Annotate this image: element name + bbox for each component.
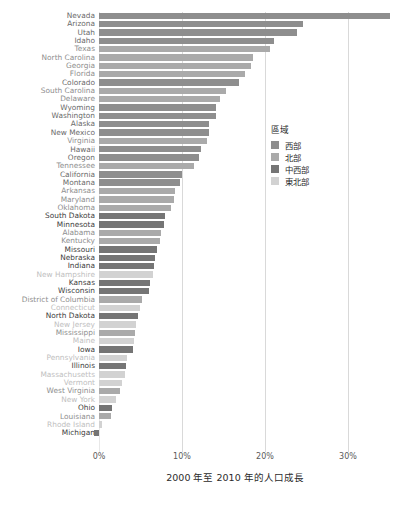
bar [99, 88, 226, 94]
table-row [99, 54, 410, 62]
table-row [99, 162, 410, 170]
bar [99, 321, 136, 327]
table-row [99, 112, 410, 120]
plot-area [99, 12, 348, 444]
legend-item[interactable]: 北部 [271, 151, 361, 162]
bar [99, 221, 164, 227]
bar [99, 238, 160, 244]
table-row [99, 413, 410, 421]
table-row [99, 29, 410, 37]
legend-item[interactable]: 中西部 [271, 163, 361, 174]
bar [99, 313, 138, 319]
table-row [99, 212, 410, 220]
bar [99, 79, 239, 85]
bar [99, 296, 142, 302]
legend-item[interactable]: 西部 [271, 139, 361, 150]
x-tick-label: 10% [173, 452, 191, 461]
bar [99, 330, 135, 336]
y-axis-labels: NevadaArizonaUtahIdahoTexasNorth Carolin… [0, 12, 95, 438]
bar [99, 346, 133, 352]
table-row [99, 304, 410, 312]
table-row [99, 296, 410, 304]
bar [99, 205, 171, 211]
bar [99, 305, 140, 311]
population-growth-bar-chart: NevadaArizonaUtahIdahoTexasNorth Carolin… [0, 0, 410, 507]
bar [99, 104, 216, 110]
bar [99, 163, 194, 169]
legend-item-label: 中西部 [285, 163, 309, 175]
x-axis-title: 2000 年至 2010 年的人口成長 [0, 470, 410, 484]
table-row [99, 254, 410, 262]
table-row [99, 171, 410, 179]
table-row [99, 221, 410, 229]
bar [99, 255, 155, 261]
table-row [99, 404, 410, 412]
table-row [99, 20, 410, 28]
bar [99, 138, 207, 144]
table-row [99, 321, 410, 329]
bar [99, 230, 161, 236]
table-row [99, 104, 410, 112]
table-row [99, 312, 410, 320]
bar [99, 179, 180, 185]
bar [99, 46, 270, 52]
bar [99, 63, 251, 69]
bar [99, 271, 153, 277]
bar [99, 421, 102, 427]
bar [99, 71, 245, 77]
legend: 區域 西部北部中西部東北部 [271, 123, 361, 187]
bar [99, 363, 126, 369]
bar [94, 430, 99, 436]
bar [99, 371, 125, 377]
table-row [99, 154, 410, 162]
table-row [99, 120, 410, 128]
table-row [99, 137, 410, 145]
y-axis-label: Michigan [0, 429, 95, 437]
bar [99, 29, 297, 35]
table-row [99, 79, 410, 87]
bar [99, 338, 134, 344]
table-row [99, 362, 410, 370]
table-row [99, 262, 410, 270]
table-row [99, 70, 410, 78]
bar [99, 288, 149, 294]
table-row [99, 346, 410, 354]
bar [99, 388, 120, 394]
bar [99, 113, 216, 119]
table-row [99, 237, 410, 245]
bar [99, 380, 122, 386]
bar [99, 196, 174, 202]
bar [99, 263, 154, 269]
table-row [99, 12, 410, 20]
bar [99, 21, 303, 27]
table-row [99, 129, 410, 137]
table-row [99, 179, 410, 187]
table-row [99, 371, 410, 379]
bar [99, 121, 209, 127]
table-row [99, 62, 410, 70]
table-row [99, 87, 410, 95]
legend-item[interactable]: 東北部 [271, 175, 361, 186]
bar [99, 405, 112, 411]
bar [99, 96, 220, 102]
table-row [99, 337, 410, 345]
bar [99, 146, 201, 152]
bar-rows [99, 12, 410, 438]
bar [99, 213, 165, 219]
bar [99, 54, 253, 60]
table-row [99, 196, 410, 204]
table-row [99, 421, 410, 429]
table-row [99, 387, 410, 395]
x-tick-label: 0% [93, 452, 106, 461]
table-row [99, 37, 410, 45]
legend-item-label: 東北部 [285, 175, 309, 187]
table-row [99, 354, 410, 362]
table-row [99, 95, 410, 103]
bar [99, 154, 199, 160]
table-row [99, 396, 410, 404]
legend-item-label: 北部 [285, 151, 301, 163]
legend-swatch-icon [271, 141, 279, 149]
table-row [99, 429, 410, 437]
bar [99, 13, 390, 19]
x-axis-ticks: 0%10%20%30% [0, 452, 410, 466]
